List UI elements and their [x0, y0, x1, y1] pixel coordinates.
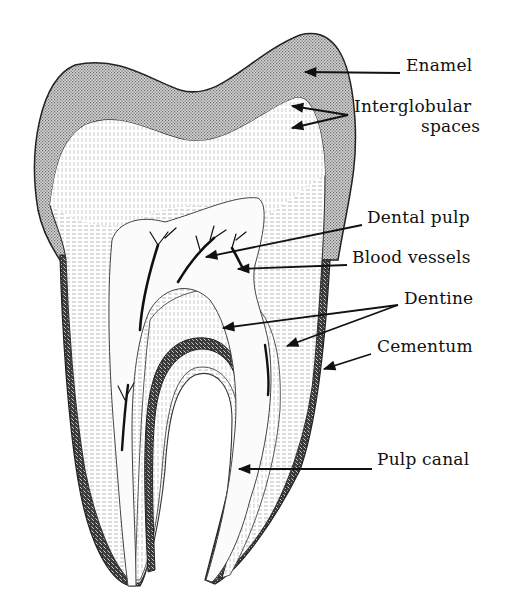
arrow-enamel	[305, 72, 400, 73]
label-dental-pulp: Dental pulp	[367, 207, 470, 227]
label-pulp-canal: Pulp canal	[377, 449, 469, 469]
arrow-cementum	[324, 354, 371, 369]
label-interglobular: Interglobular	[354, 96, 471, 116]
label-enamel: Enamel	[406, 55, 472, 75]
label-dentine: Dentine	[404, 288, 473, 308]
label-spaces: spaces	[421, 116, 480, 136]
tooth-diagram: Enamel Interglobular spaces Dental pulp …	[0, 0, 509, 598]
label-blood-vessels: Blood vessels	[352, 247, 471, 267]
label-cementum: Cementum	[377, 336, 473, 356]
